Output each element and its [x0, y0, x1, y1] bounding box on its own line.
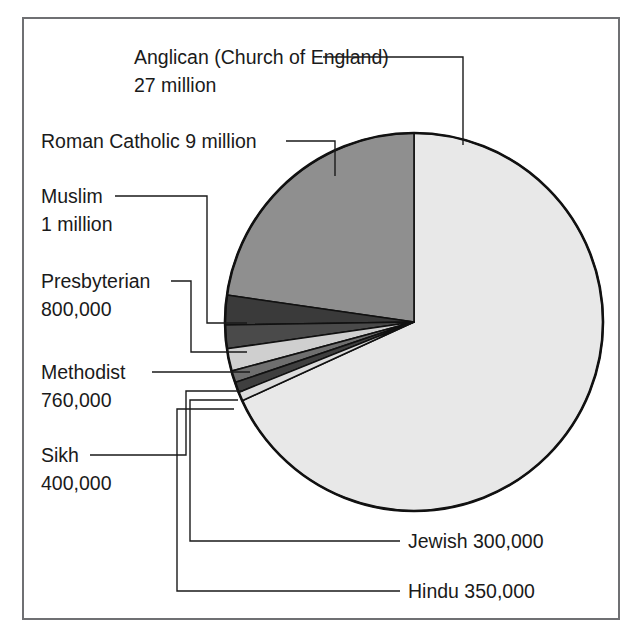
- figure-canvas: Anglican (Church of England) 27 million …: [0, 0, 643, 639]
- label-hindu: Hindu 350,000: [408, 580, 535, 602]
- pie-slice-roman-catholic[interactable]: [227, 133, 414, 322]
- label-jewish: Jewish 300,000: [408, 530, 544, 552]
- label-methodist-line1: Methodist: [41, 361, 126, 383]
- label-presbyterian-line1: Presbyterian: [41, 270, 150, 292]
- label-sikh-line2: 400,000: [41, 472, 112, 494]
- pie-slices: [225, 133, 603, 511]
- label-roman-catholic: Roman Catholic 9 million: [41, 130, 257, 152]
- label-sikh-line1: Sikh: [41, 444, 79, 466]
- leader-line-anglican: [323, 57, 463, 145]
- label-anglican-line2: 27 million: [134, 74, 216, 96]
- label-anglican-line1: Anglican (Church of England): [134, 46, 389, 68]
- label-presbyterian-line2: 800,000: [41, 298, 112, 320]
- label-methodist-line2: 760,000: [41, 389, 112, 411]
- label-muslim-line2: 1 million: [41, 213, 113, 235]
- pie-chart: Anglican (Church of England) 27 million …: [0, 0, 643, 639]
- label-muslim-line1: Muslim: [41, 185, 103, 207]
